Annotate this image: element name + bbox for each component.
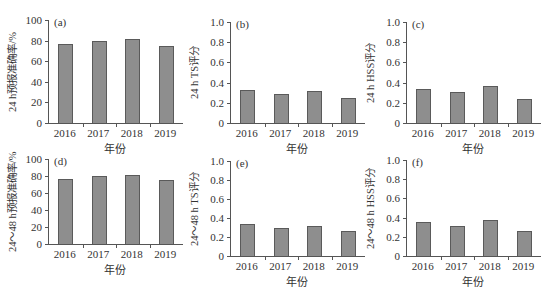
chart-panel-a: 0204060801002016201720182019(a)年份24 h预报准… <box>0 0 184 146</box>
x-tick-label: 2018 <box>473 127 507 139</box>
y-tick-mark <box>45 61 49 62</box>
y-tick-label: 0 <box>372 250 400 262</box>
bar-2018 <box>307 91 322 123</box>
x-tick-label: 2017 <box>263 260 297 272</box>
chart-panel-c: 00.20.40.60.81.02016201720182019(c)年份24 … <box>368 0 552 146</box>
bar-2018 <box>483 220 498 256</box>
y-tick-mark <box>227 180 231 181</box>
x-tick-label: 2018 <box>297 127 331 139</box>
y-tick-mark <box>403 62 407 63</box>
y-tick-mark <box>403 218 407 219</box>
y-tick-label: 0 <box>196 117 224 129</box>
chart-panel-d: 0204060801002016201720182019(d)年份24～48 h… <box>0 146 184 292</box>
chart-panel-e: 00.20.40.60.81.02016201720182019(e)年份24～… <box>184 146 368 292</box>
bar-2017 <box>92 41 107 123</box>
y-axis-title: 24 h预报准确率/% <box>4 31 19 111</box>
y-tick-label: 0 <box>196 250 224 262</box>
x-tick-label: 2017 <box>81 127 115 139</box>
panel-label: (f) <box>412 156 423 168</box>
bar-2016 <box>58 44 73 123</box>
x-tick-label: 2018 <box>297 260 331 272</box>
bar-2016 <box>240 224 255 256</box>
bar-2019 <box>159 46 174 123</box>
x-tick-label: 2016 <box>48 248 82 260</box>
chart-panel-b: 00.20.40.60.81.02016201720182019(b)年份24 … <box>184 0 368 146</box>
x-tick-label: 2016 <box>406 260 440 272</box>
x-tick-label: 2017 <box>263 127 297 139</box>
x-tick-label: 2019 <box>506 127 540 139</box>
bar-2018 <box>125 39 140 123</box>
y-tick-mark <box>227 103 231 104</box>
x-tick-label: 2016 <box>230 127 264 139</box>
plot-area <box>406 160 541 257</box>
y-tick-mark <box>45 244 49 245</box>
plot-area <box>230 22 365 124</box>
x-tick-label: 2018 <box>115 248 149 260</box>
x-tick-label: 2016 <box>230 260 264 272</box>
y-tick-mark <box>403 22 407 23</box>
x-tick-label: 2018 <box>473 260 507 272</box>
bar-2018 <box>483 86 498 123</box>
y-tick-mark <box>403 160 407 161</box>
y-tick-mark <box>403 103 407 104</box>
y-tick-mark <box>227 123 231 124</box>
x-tick-label: 2016 <box>406 127 440 139</box>
y-tick-label: 100 <box>14 14 42 26</box>
y-tick-mark <box>45 176 49 177</box>
y-tick-mark <box>403 83 407 84</box>
y-axis-title: 24～48 h预报准确率/% <box>4 151 19 252</box>
y-tick-mark <box>45 82 49 83</box>
y-tick-mark <box>45 20 49 21</box>
bar-2019 <box>517 99 532 123</box>
y-tick-label: 1.0 <box>196 16 224 28</box>
y-tick-mark <box>227 42 231 43</box>
y-tick-mark <box>403 179 407 180</box>
bar-2019 <box>159 180 174 244</box>
x-tick-label: 2017 <box>439 260 473 272</box>
y-tick-mark <box>227 199 231 200</box>
panel-label: (e) <box>236 157 248 169</box>
y-tick-mark <box>227 256 231 257</box>
y-tick-mark <box>45 193 49 194</box>
bar-2019 <box>517 231 532 256</box>
y-tick-mark <box>45 210 49 211</box>
bar-2016 <box>416 222 431 256</box>
y-tick-mark <box>45 159 49 160</box>
y-tick-mark <box>227 237 231 238</box>
chart-panel-f: 00.20.40.60.81.02016201720182019(f)年份24～… <box>368 146 552 292</box>
y-tick-mark <box>45 227 49 228</box>
bar-2018 <box>307 226 322 256</box>
y-axis-title: 24～48 h HSS评分 <box>362 168 377 249</box>
x-tick-label: 2017 <box>81 248 115 260</box>
x-tick-label: 2017 <box>439 127 473 139</box>
x-tick-label: 2019 <box>330 127 364 139</box>
bar-2016 <box>58 179 73 244</box>
y-tick-mark <box>403 237 407 238</box>
x-axis-title: 年份 <box>443 273 503 289</box>
bar-2017 <box>450 92 465 123</box>
y-tick-label: 0 <box>372 117 400 129</box>
y-tick-mark <box>45 102 49 103</box>
y-tick-mark <box>227 62 231 63</box>
x-axis-title: 年份 <box>85 261 145 277</box>
y-tick-label: 1.0 <box>196 155 224 167</box>
plot-area <box>230 161 365 257</box>
bar-2016 <box>416 89 431 123</box>
x-axis-title: 年份 <box>267 273 327 289</box>
x-tick-label: 2019 <box>330 260 364 272</box>
bar-2017 <box>92 176 107 244</box>
y-tick-mark <box>45 123 49 124</box>
bar-2017 <box>450 226 465 256</box>
y-axis-title: 24 h TS评分 <box>186 46 201 99</box>
x-tick-label: 2019 <box>148 127 182 139</box>
y-tick-mark <box>403 123 407 124</box>
bar-2017 <box>274 228 289 256</box>
x-tick-label: 2016 <box>48 127 82 139</box>
bar-2017 <box>274 94 289 123</box>
y-tick-label: 1.0 <box>372 16 400 28</box>
x-tick-label: 2019 <box>506 260 540 272</box>
bar-2018 <box>125 175 140 244</box>
y-axis-title: 24～48 h TS评分 <box>186 172 201 246</box>
plot-area <box>48 159 183 245</box>
y-tick-mark <box>227 22 231 23</box>
